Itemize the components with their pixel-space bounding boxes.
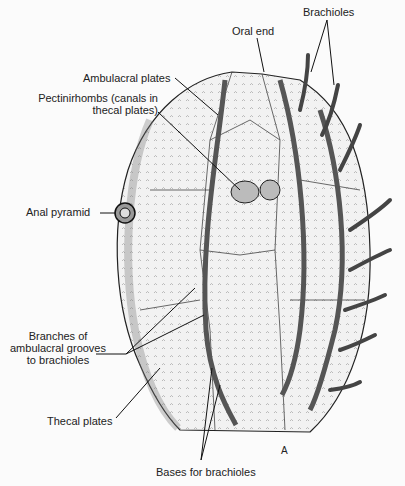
figure-letter: A <box>281 445 288 457</box>
label-bases-for-brachioles: Bases for brachioles <box>156 466 256 478</box>
label-pectinirhombs-line1: Pectinirhombs (canals in <box>34 92 158 104</box>
label-anal-pyramid: Anal pyramid <box>26 206 90 218</box>
cystoid-illustration <box>0 0 405 486</box>
label-brachioles: Brachioles <box>303 6 354 18</box>
label-pectinirhombs: Pectinirhombs (canals in thecal plates) <box>34 92 158 116</box>
label-pectinirhombs-line2: thecal plates) <box>34 104 158 116</box>
label-thecal-plates: Thecal plates <box>47 415 112 427</box>
label-branches-line1: Branches of <box>8 330 108 342</box>
label-branches-line3: to brachioles <box>8 354 108 366</box>
label-ambulacral-plates: Ambulacral plates <box>83 72 170 84</box>
label-branches-line2: ambulacral grooves <box>8 342 108 354</box>
label-oral-end: Oral end <box>232 25 274 37</box>
pectinirhomb <box>231 181 259 203</box>
label-branches: Branches of ambulacral grooves to brachi… <box>8 330 108 366</box>
